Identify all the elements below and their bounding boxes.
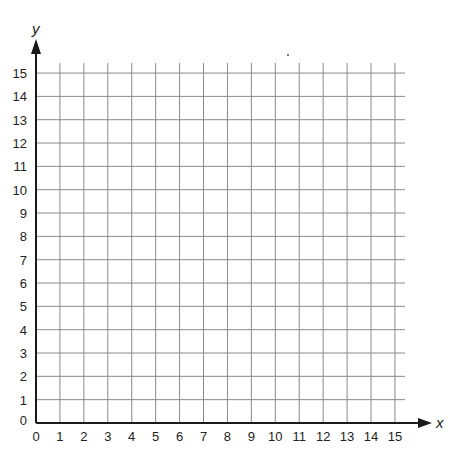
- y-tick-label: 4: [20, 323, 27, 338]
- axes: [31, 39, 432, 428]
- y-tick-labels: 0123456789101112131415: [13, 66, 27, 428]
- x-tick-label: 5: [152, 429, 159, 444]
- y-axis-label: y: [31, 20, 41, 37]
- y-tick-label: 14: [13, 89, 27, 104]
- x-tick-label: 3: [104, 429, 111, 444]
- x-tick-label: 11: [292, 429, 306, 444]
- y-axis-arrow-icon: [31, 39, 41, 54]
- grid-lines: [36, 63, 405, 423]
- x-tick-label: 15: [388, 429, 402, 444]
- x-tick-label: 9: [248, 429, 255, 444]
- x-tick-label: 1: [56, 429, 63, 444]
- x-tick-label: 8: [224, 429, 231, 444]
- x-tick-label: 13: [340, 429, 354, 444]
- y-tick-label: 11: [14, 159, 28, 174]
- stray-dot: [287, 54, 289, 56]
- y-tick-label: 6: [20, 276, 27, 291]
- x-tick-label: 7: [200, 429, 207, 444]
- coordinate-grid: x y 0123456789101112131415 0123456789101…: [0, 0, 456, 455]
- y-tick-label: 8: [20, 229, 27, 244]
- x-axis-label: x: [435, 414, 444, 431]
- y-tick-label: 10: [13, 183, 27, 198]
- y-tick-label: 15: [13, 66, 27, 81]
- x-tick-labels: 0123456789101112131415: [32, 429, 402, 444]
- y-tick-label: 5: [20, 299, 27, 314]
- x-tick-label: 4: [128, 429, 135, 444]
- y-tick-label: 13: [13, 113, 27, 128]
- y-tick-label: 7: [20, 253, 27, 268]
- y-tick-label: 2: [20, 369, 27, 384]
- x-axis-arrow-icon: [418, 418, 432, 428]
- x-tick-label: 6: [176, 429, 183, 444]
- x-tick-label: 10: [268, 429, 282, 444]
- y-tick-label: 9: [20, 206, 27, 221]
- y-tick-label: 1: [20, 393, 27, 408]
- x-tick-label: 2: [80, 429, 87, 444]
- y-tick-label: 3: [20, 346, 27, 361]
- y-tick-label: 0: [20, 413, 27, 428]
- y-tick-label: 12: [13, 136, 27, 151]
- x-tick-label: 0: [32, 429, 39, 444]
- x-tick-label: 14: [364, 429, 378, 444]
- x-tick-label: 12: [316, 429, 330, 444]
